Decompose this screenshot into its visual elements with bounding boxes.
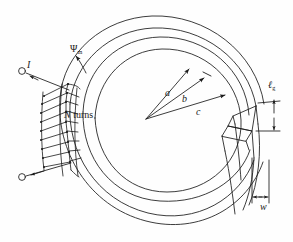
gap-length-subscript: g xyxy=(272,84,275,91)
radius-c-label: c xyxy=(196,107,200,117)
flux-label: Ψm xyxy=(70,44,82,55)
radius-b-label: b xyxy=(182,94,187,104)
turns-word: turns xyxy=(71,109,94,120)
turns-symbol: N xyxy=(64,109,71,120)
toroid-air-gap-figure: I Ψm N turns a b c ℓg w xyxy=(0,0,293,242)
gap-length-label: ℓg xyxy=(268,80,275,91)
terminal-lead-bottom xyxy=(19,163,71,180)
coil-winding xyxy=(41,84,81,177)
radius-a-label: a xyxy=(165,88,170,98)
core-inner-hole-arc xyxy=(95,49,241,192)
core-inner-band-arc xyxy=(83,37,250,201)
gap-length-dimension xyxy=(256,100,280,131)
toroid-diagram-svg xyxy=(0,0,293,242)
terminal-lead-top xyxy=(19,68,69,90)
core-outer-top-edge-arc xyxy=(70,28,256,216)
turns-label: N turns xyxy=(64,110,93,120)
current-label: I xyxy=(27,60,30,70)
flux-subscript: m xyxy=(77,48,82,55)
core-width-label: w xyxy=(260,202,267,212)
